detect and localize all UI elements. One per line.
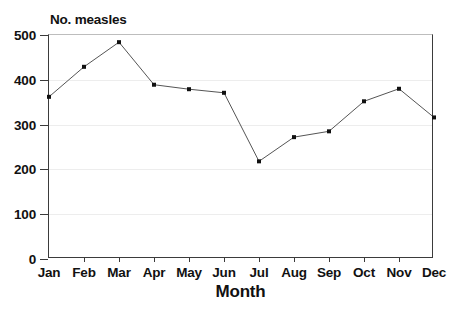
y-axis-tick-label: 0 (29, 252, 36, 267)
y-axis-tick-label: 300 (14, 117, 36, 132)
y-axis-tick (40, 35, 48, 36)
x-axis-tick-label: Nov (387, 265, 412, 280)
data-point-marker (152, 83, 156, 87)
data-point-marker (117, 40, 121, 44)
x-axis-tick-label: Feb (72, 265, 95, 280)
x-axis-tick-label: Sep (317, 265, 341, 280)
x-axis-title: Month (48, 282, 433, 302)
data-point-marker (187, 87, 191, 91)
y-axis-tick (40, 259, 48, 260)
series-polyline (49, 42, 434, 161)
x-axis-tick-label: Oct (353, 265, 375, 280)
y-axis-tick-label: 400 (14, 72, 36, 87)
data-point-marker (327, 129, 331, 133)
y-axis-tick (40, 125, 48, 126)
measles-line-chart: No. measles 0100200300400500 JanFebMarAp… (0, 0, 462, 314)
y-axis-title: No. measles (50, 12, 127, 27)
x-axis-tick-label: Aug (281, 265, 307, 280)
data-point-marker (222, 91, 226, 95)
series-line-measles (49, 35, 434, 259)
y-axis-tick (40, 169, 48, 170)
y-axis-tick-label: 100 (14, 207, 36, 222)
x-axis-tick-label: Jan (38, 265, 61, 280)
y-axis-tick-label: 200 (14, 162, 36, 177)
x-axis-tick-label: Jun (212, 265, 235, 280)
y-axis-tick-label: 500 (14, 28, 36, 43)
x-axis-tick-label: Dec (422, 265, 446, 280)
data-point-marker (292, 135, 296, 139)
plot-area: 0100200300400500 JanFebMarAprMayJunJulAu… (48, 34, 433, 258)
data-point-marker (397, 87, 401, 91)
data-point-marker (82, 65, 86, 69)
y-axis-tick (40, 214, 48, 215)
x-axis-tick-label: Jul (250, 265, 269, 280)
data-point-marker (362, 99, 366, 103)
data-point-marker (432, 115, 436, 119)
x-axis-tick-label: Apr (143, 265, 166, 280)
x-axis-tick-label: Mar (107, 265, 130, 280)
data-point-marker (47, 95, 51, 99)
x-axis-tick-label: May (176, 265, 202, 280)
y-axis-tick (40, 80, 48, 81)
data-point-marker (257, 159, 261, 163)
